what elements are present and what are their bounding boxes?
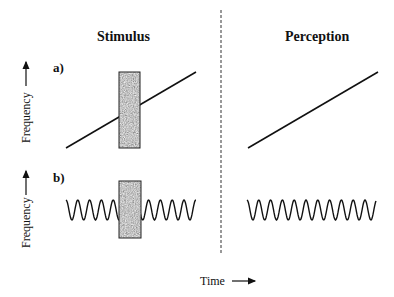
y-axis-label-a: Frequency bbox=[19, 92, 34, 143]
figure: Stimulus Perception a) b) Frequency Freq… bbox=[0, 0, 394, 297]
x-axis-label: Time bbox=[200, 274, 225, 289]
noise-burst-b bbox=[119, 181, 141, 238]
panel-label-a: a) bbox=[53, 60, 64, 76]
perception-b-tone bbox=[247, 200, 376, 220]
stimulus-title: Stimulus bbox=[97, 29, 150, 45]
y-axis-label-b: Frequency bbox=[19, 197, 34, 248]
noise-burst-a bbox=[119, 72, 140, 148]
perception-a-glide bbox=[248, 72, 378, 148]
panel-label-b: b) bbox=[53, 170, 65, 186]
perception-title: Perception bbox=[285, 29, 349, 45]
